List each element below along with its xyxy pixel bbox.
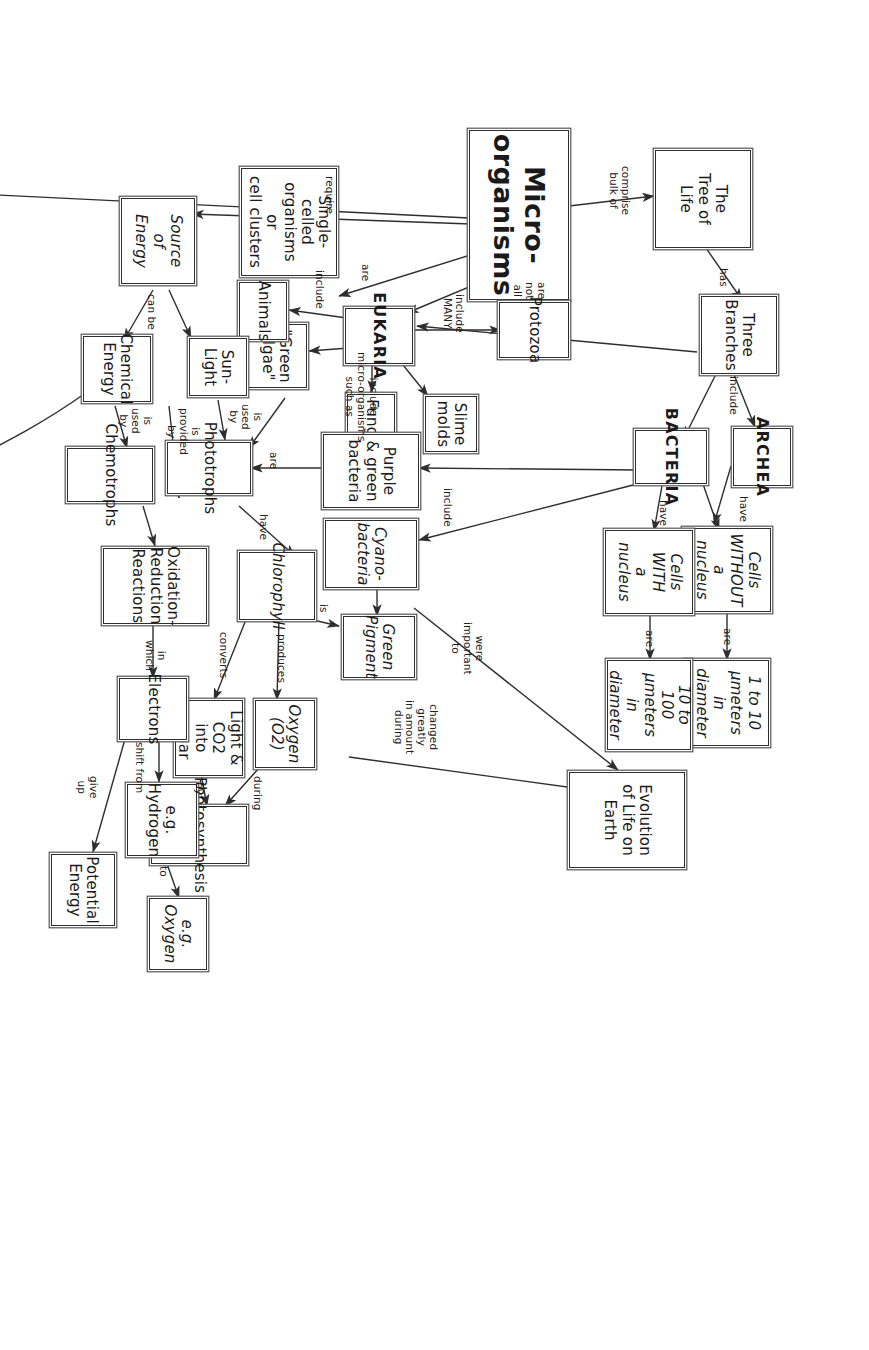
node-label: Chemotrophs bbox=[101, 424, 118, 527]
link-label-include-bacteria-groups: include bbox=[441, 488, 453, 527]
node-micro-organisms[interactable]: Micro-organisms bbox=[469, 130, 569, 300]
node-electrons[interactable]: Electrons bbox=[119, 678, 187, 740]
node-label: Sun- Light bbox=[201, 348, 236, 386]
node-label: Oxygen (O2) bbox=[268, 704, 303, 763]
node-protozoa[interactable]: Protozoa bbox=[499, 302, 569, 358]
link-label-in-which: in which bbox=[144, 640, 168, 671]
link-label-require: require bbox=[323, 176, 335, 214]
node-label: Protozoa bbox=[525, 297, 542, 364]
node-label: Chlorophyll bbox=[268, 542, 285, 629]
node-slime-molds[interactable]: Slime molds bbox=[425, 396, 477, 452]
link-label-are-without: are bbox=[721, 628, 733, 645]
node-oxidation-reduction-reactions[interactable]: Oxidation- Reduction Reactions bbox=[103, 548, 207, 624]
node-green-pigment[interactable]: Green Pigment bbox=[343, 616, 415, 678]
node-label: Potential Energy bbox=[66, 856, 101, 924]
node-label: Electrons bbox=[144, 673, 161, 744]
node-chemotrophs[interactable]: Chemotrophs bbox=[67, 448, 153, 502]
link-label-are-with: are bbox=[643, 630, 655, 647]
link-label-comprise-bulk-of: comprise bulk of bbox=[608, 166, 632, 215]
node-size-10-to-100[interactable]: 10 to 100 μmeters in diameter bbox=[607, 660, 691, 750]
concept-map-canvas: Micro-organisms The Tree of Life Three B… bbox=[0, 0, 869, 1350]
link-label-include-animals: include bbox=[313, 270, 325, 309]
node-label: Oxidation- Reduction Reactions bbox=[129, 546, 181, 626]
link-label-is-used-by-chemenergy: is used by bbox=[118, 408, 153, 434]
link-label-during: during bbox=[251, 776, 263, 810]
node-label: Chemical Energy bbox=[100, 333, 135, 404]
node-label: 10 to 100 μmeters in diameter bbox=[606, 668, 693, 742]
node-label: The Tree of Life bbox=[677, 173, 729, 225]
node-label: Single-celled organisms or cell clusters bbox=[246, 176, 333, 268]
node-label: Cells WITHOUT a nucleus bbox=[692, 533, 762, 606]
node-evolution-of-life[interactable]: Evolution of Life on Earth bbox=[569, 772, 685, 868]
link-label-give-up: give up bbox=[76, 776, 100, 799]
node-three-branches[interactable]: Three Branches bbox=[701, 296, 777, 374]
node-label: BACTERIA bbox=[662, 408, 681, 506]
link-label-are-phototrophs: are bbox=[267, 452, 279, 469]
node-oxygen[interactable]: Oxygen (O2) bbox=[255, 700, 315, 768]
node-label: Micro-organisms bbox=[488, 134, 551, 297]
node-label: e.g. Oxygen bbox=[161, 905, 196, 964]
link-label-is-used-by-sunlight: is used by bbox=[228, 404, 263, 430]
link-label-include-branches: include bbox=[727, 376, 739, 415]
node-eg-hydrogen[interactable]: e.g. Hydrogen bbox=[127, 784, 197, 856]
node-label: ARCHEA bbox=[753, 417, 772, 497]
node-tree-of-life[interactable]: The Tree of Life bbox=[655, 150, 751, 248]
node-label: Three Branches bbox=[722, 299, 757, 371]
node-label: Phototrophs bbox=[200, 422, 217, 515]
node-cyanobacteria[interactable]: Cyano- bacteria bbox=[325, 520, 417, 588]
link-label-converts: converts bbox=[217, 632, 229, 678]
link-label-can-be-energy: can be bbox=[145, 294, 157, 330]
node-size-1-to-10[interactable]: 1 to 10 μmeters in diameter bbox=[685, 660, 769, 746]
link-label-are-not-all: are not all bbox=[512, 282, 547, 300]
node-eg-oxygen[interactable]: e.g. Oxygen bbox=[149, 898, 207, 970]
node-animals[interactable]: Animals bbox=[239, 282, 287, 340]
node-potential-energy[interactable]: Potential Energy bbox=[51, 854, 115, 926]
link-label-have-bacteria: have bbox=[657, 500, 669, 526]
link-label-to: to bbox=[157, 866, 169, 877]
node-label: Green Pigment bbox=[362, 615, 397, 678]
node-source-of-energy[interactable]: Source of Energy bbox=[121, 198, 195, 284]
node-chemical-energy[interactable]: Chemical Energy bbox=[83, 336, 151, 402]
node-label: Cyano- bacteria bbox=[354, 522, 389, 585]
link-label-have-archea: have bbox=[737, 496, 749, 522]
node-bacteria[interactable]: BACTERIA bbox=[635, 430, 707, 484]
link-label-are-single-celled: are bbox=[359, 264, 371, 281]
node-purple-green-bacteria[interactable]: Purple & green bacteria bbox=[323, 434, 419, 508]
node-label: Purple & green bacteria bbox=[345, 439, 397, 502]
node-archea[interactable]: ARCHEA bbox=[733, 428, 791, 486]
node-cells-with-nucleus[interactable]: Cells WITH a nucleus bbox=[605, 530, 693, 614]
node-label: e.g. Hydrogen bbox=[145, 783, 180, 858]
node-label: Slime molds bbox=[434, 401, 469, 447]
link-label-is-provided-by: is provided by bbox=[166, 408, 201, 455]
node-sun-light[interactable]: Sun- Light bbox=[189, 338, 247, 396]
link-label-produces: produces bbox=[275, 634, 287, 683]
node-label: 1 to 10 μmeters in diameter bbox=[692, 668, 762, 738]
link-label-changed-greatly: changed greatly in amount during bbox=[392, 700, 439, 754]
node-label: Animals bbox=[254, 280, 271, 341]
link-label-were-important-to: were important to bbox=[450, 622, 485, 675]
link-label-shift-from: shift from bbox=[133, 742, 145, 793]
node-chlorophyll[interactable]: Chlorophyll bbox=[239, 552, 315, 620]
node-cells-without-nucleus[interactable]: Cells WITHOUT a nucleus bbox=[683, 528, 771, 612]
rotated-canvas-wrapper: Micro-organisms The Tree of Life Three B… bbox=[0, 0, 869, 1350]
link-label-is-green-pigment: is bbox=[317, 604, 329, 613]
link-label-include-many: include MANY bbox=[442, 294, 466, 333]
link-label-include-micro-organisms: include micro-organisms such as bbox=[344, 352, 379, 442]
node-label: Cells WITH a nucleus bbox=[614, 538, 684, 606]
node-label: Source of Energy bbox=[132, 206, 184, 276]
link-label-has: has bbox=[717, 268, 729, 287]
link-label-have-chlorophyll: have bbox=[257, 514, 269, 540]
link-label-by: by bbox=[193, 782, 205, 795]
node-label: Evolution of Life on Earth bbox=[601, 780, 653, 860]
